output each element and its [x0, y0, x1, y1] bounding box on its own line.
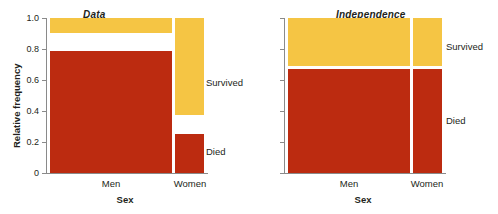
bar-men-died [50, 51, 172, 173]
y-tick-label-0: 0 [8, 168, 39, 178]
y-tick-label-1-0: 1.0 [8, 13, 39, 23]
y-tick-label-0-4: 0.4 [8, 106, 39, 116]
legend-label-survived: Survived [206, 77, 243, 88]
y-tick-1-0 [42, 18, 46, 19]
x-axis-line [284, 173, 446, 174]
y-tick-label-0-8: 0.8 [8, 44, 39, 54]
panel-data: Data Relative frequency 1.0 0.8 0.6 0.4 … [0, 0, 250, 214]
y-tick-0-4 [42, 111, 46, 112]
y-tick-0-8 [42, 49, 46, 50]
panel-independence: Independence Men Women Sex Survived Died [248, 0, 498, 214]
x-tick-label-men: Men [78, 178, 144, 189]
y-tick-0-8 [280, 49, 284, 50]
x-axis-line [46, 173, 208, 174]
legend-label-died: Died [206, 146, 226, 157]
y-tick-0-6 [280, 80, 284, 81]
bar-men-survived [50, 18, 172, 33]
y-tick-0-6 [42, 80, 46, 81]
bar-women-survived [413, 18, 442, 66]
y-tick-0-4 [280, 111, 284, 112]
legend-label-died: Died [446, 115, 466, 126]
y-tick-0-2 [280, 142, 284, 143]
x-tick-label-women: Women [394, 178, 460, 189]
y-tick-label-0-6: 0.6 [8, 75, 39, 85]
bar-men-died [288, 69, 410, 173]
x-axis-label: Sex [333, 194, 393, 205]
x-axis-label: Sex [95, 194, 155, 205]
bar-women-died [175, 134, 204, 173]
figure-root: Data Relative frequency 1.0 0.8 0.6 0.4 … [0, 0, 498, 214]
bar-men-survived [288, 18, 410, 66]
y-axis-line [284, 18, 285, 174]
bar-women-survived [175, 18, 204, 115]
x-tick-label-women: Women [157, 178, 223, 189]
bar-women-died [413, 69, 442, 173]
y-tick-0-2 [42, 142, 46, 143]
y-tick-1-0 [280, 18, 284, 19]
legend-label-survived: Survived [446, 41, 483, 52]
y-axis-line [46, 18, 47, 174]
x-tick-label-men: Men [316, 178, 382, 189]
y-tick-label-0-2: 0.2 [8, 137, 39, 147]
